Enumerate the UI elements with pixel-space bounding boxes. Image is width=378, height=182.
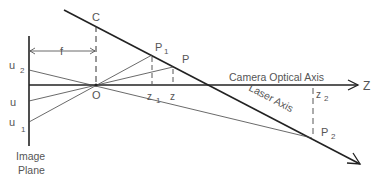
u-label: u [10,96,16,108]
c-label: C [92,11,100,23]
z1-label: z [147,91,152,102]
p1-label: P [155,41,162,53]
z1-subscript: 1 [156,96,161,105]
image-plane-label-line2: Plane [18,164,45,176]
p-label: P [182,53,189,65]
o-point [95,84,98,87]
u2-subscript: 2 [20,66,25,75]
triangulation-diagram: C f O P 1 P P 2 z 1 z z 2 Z u 2 u u 1 Ca… [0,0,378,182]
p2-label: P [321,126,328,138]
u2-label: u [9,59,15,71]
z2-label: z [316,89,321,100]
z2-subscript: 2 [324,94,329,103]
o-label: O [92,89,101,101]
laser-axis [64,10,360,164]
u1-subscript: 1 [21,125,26,134]
p2-subscript: 2 [331,132,336,141]
u1-label: u [9,116,15,128]
z-label: z [170,91,175,102]
ray-u1-p1 [29,55,152,122]
image-plane-label-line1: Image [16,150,45,162]
p1-subscript: 1 [164,47,169,56]
camera-optical-axis-label: Camera Optical Axis [229,71,324,83]
z-axis-label: Z [363,79,370,93]
